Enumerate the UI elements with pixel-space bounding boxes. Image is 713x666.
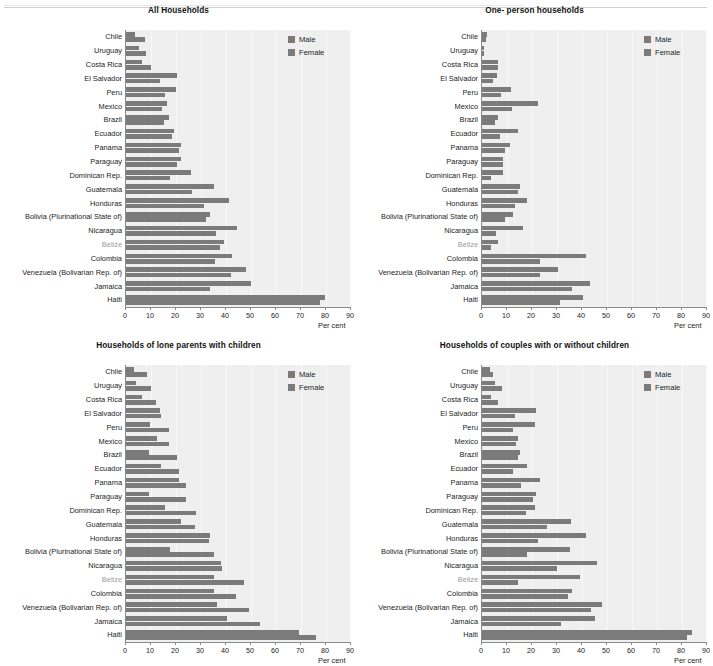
bar-female xyxy=(126,608,249,613)
bar-male xyxy=(482,143,510,148)
bar-female xyxy=(126,622,260,627)
legend-item-female[interactable]: Female xyxy=(644,48,680,57)
chart-legend: MaleFemale xyxy=(644,35,680,61)
bar-female xyxy=(126,120,164,125)
bar-male xyxy=(126,32,135,37)
category-label: Honduras xyxy=(446,200,478,207)
category-label: Ecuador xyxy=(450,130,478,137)
x-axis-tick-label: 20 xyxy=(527,311,535,320)
bar-male xyxy=(126,533,210,538)
bar-female xyxy=(126,273,231,278)
bar-female xyxy=(482,231,496,236)
x-axis-tick xyxy=(200,642,201,645)
gridline xyxy=(632,30,633,307)
category-label: Chile xyxy=(461,33,478,40)
category-label: Panama xyxy=(450,479,478,486)
category-label: Venezuela (Bolivarian Rep. of) xyxy=(378,604,478,611)
x-axis-tick-label: 90 xyxy=(346,311,354,320)
bar-male xyxy=(482,240,498,245)
bar-male xyxy=(126,422,150,427)
bar-female xyxy=(126,539,209,544)
bar-male xyxy=(126,492,149,497)
bar-male xyxy=(126,60,142,65)
header-rule xyxy=(4,7,707,8)
category-label: Dominican Rep. xyxy=(425,172,478,179)
x-axis-title: Per cent xyxy=(674,321,702,330)
bar-male xyxy=(482,101,538,106)
legend-item-male[interactable]: Male xyxy=(288,370,324,379)
bar-male xyxy=(482,533,586,538)
x-axis-tick xyxy=(556,642,557,645)
x-axis-tick xyxy=(481,642,482,645)
gridline xyxy=(251,30,252,307)
x-axis-tick xyxy=(350,642,351,645)
bar-male xyxy=(126,575,214,580)
legend-label-male: Male xyxy=(299,370,315,379)
category-label: Dominican Rep. xyxy=(69,172,122,179)
category-label: Honduras xyxy=(446,535,478,542)
bar-male xyxy=(482,464,527,469)
x-axis-tick xyxy=(681,307,682,310)
gridline xyxy=(707,365,708,642)
legend-item-male[interactable]: Male xyxy=(288,35,324,44)
bar-female xyxy=(482,469,513,474)
header-hairline xyxy=(4,5,524,6)
category-label: Panama xyxy=(94,144,122,151)
category-label: Colombia xyxy=(447,590,478,597)
bar-male xyxy=(482,616,595,621)
x-axis-tick xyxy=(506,642,507,645)
chart-panel: One- person householdsChileUruguayCosta … xyxy=(0,0,713,666)
x-axis-tick xyxy=(656,642,657,645)
x-axis-tick xyxy=(175,307,176,310)
x-axis-tick xyxy=(506,307,507,310)
legend-item-female[interactable]: Female xyxy=(644,383,680,392)
x-axis-line xyxy=(125,307,350,308)
category-label: Brazil xyxy=(460,451,478,458)
bar-male xyxy=(482,450,520,455)
x-axis-tick xyxy=(581,642,582,645)
bar-female xyxy=(126,566,222,571)
legend-item-male[interactable]: Male xyxy=(644,370,680,379)
x-axis-tick-label: 0 xyxy=(479,311,483,320)
gridline xyxy=(176,365,177,642)
bar-female xyxy=(126,259,215,264)
legend-item-male[interactable]: Male xyxy=(644,35,680,44)
plot-area xyxy=(481,365,706,642)
x-axis-tick-label: 10 xyxy=(146,646,154,655)
category-label: Costa Rica xyxy=(86,61,122,68)
bar-male xyxy=(482,60,498,65)
bar-female xyxy=(482,552,527,557)
x-axis-tick-label: 40 xyxy=(221,311,229,320)
legend-item-female[interactable]: Female xyxy=(288,383,324,392)
category-label: Nicaragua xyxy=(88,227,122,234)
category-label: Brazil xyxy=(104,451,122,458)
x-axis-tick-label: 80 xyxy=(321,646,329,655)
category-label: Peru xyxy=(106,89,122,96)
category-label: Uruguay xyxy=(450,382,478,389)
legend-item-female[interactable]: Female xyxy=(288,48,324,57)
category-label: Jamaica xyxy=(94,283,122,290)
bar-female xyxy=(482,51,484,56)
bar-female xyxy=(126,37,145,42)
category-label: El Salvador xyxy=(84,410,122,417)
bar-male xyxy=(482,561,597,566)
x-axis-tick-label: 60 xyxy=(627,311,635,320)
x-axis-tick xyxy=(125,642,126,645)
bar-male xyxy=(126,46,139,51)
x-axis-tick xyxy=(300,642,301,645)
bar-female xyxy=(126,372,147,377)
bar-male xyxy=(482,519,571,524)
x-axis-tick-label: 20 xyxy=(527,646,535,655)
bar-female xyxy=(482,400,498,405)
bar-male xyxy=(482,630,692,635)
category-label: Panama xyxy=(94,479,122,486)
bar-male xyxy=(126,630,299,635)
gridline xyxy=(557,365,558,642)
bar-male xyxy=(482,198,527,203)
bar-male xyxy=(126,436,157,441)
bar-male xyxy=(482,547,570,552)
bar-female xyxy=(482,245,491,250)
legend-label-female: Female xyxy=(655,383,680,392)
gridline xyxy=(532,365,533,642)
category-label: Bolivia (Plurinational State of) xyxy=(381,548,478,555)
